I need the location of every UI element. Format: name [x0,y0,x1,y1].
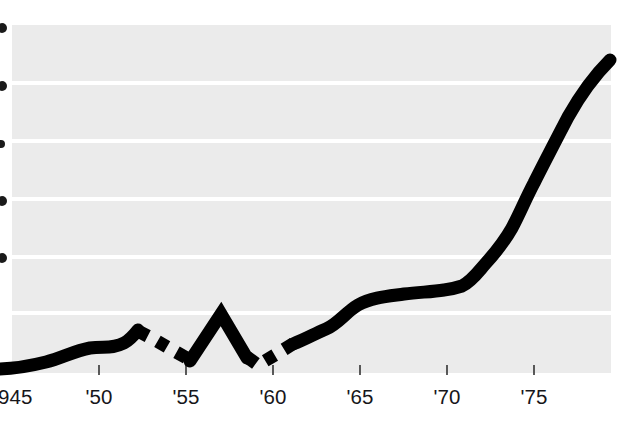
x-label-1950: '50 [85,385,112,408]
y-tick-2 [0,253,7,263]
x-label-1960: '60 [259,385,286,408]
grid-band-2 [12,259,611,311]
x-label-1965: '65 [346,385,373,408]
x-label-1955: '55 [172,385,199,408]
line-chart: 945 '50 '55 '60 '65 '70 '75 [0,0,637,439]
y-tick-3 [0,196,7,206]
chart-container: 945 '50 '55 '60 '65 '70 '75 [0,0,637,439]
x-label-1945: 945 [0,385,33,408]
y-tick-4 [0,140,5,148]
y-tick-5 [0,81,7,91]
grid-band-5 [12,85,611,139]
x-label-1970: '70 [433,385,460,408]
grid-band-6 [12,25,611,81]
y-tick-6 [0,23,7,33]
y-axis-ticks [0,23,7,375]
x-axis-labels: 945 '50 '55 '60 '65 '70 '75 [0,385,548,408]
x-label-1975: '75 [520,385,547,408]
grid-band-4 [12,143,611,197]
